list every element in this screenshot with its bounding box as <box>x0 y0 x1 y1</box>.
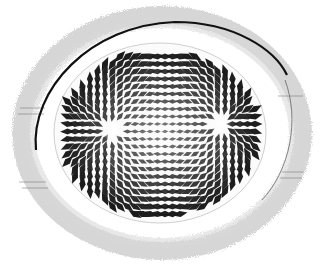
dipole-disc-illustration <box>0 0 323 266</box>
illustration-stage <box>0 0 323 266</box>
